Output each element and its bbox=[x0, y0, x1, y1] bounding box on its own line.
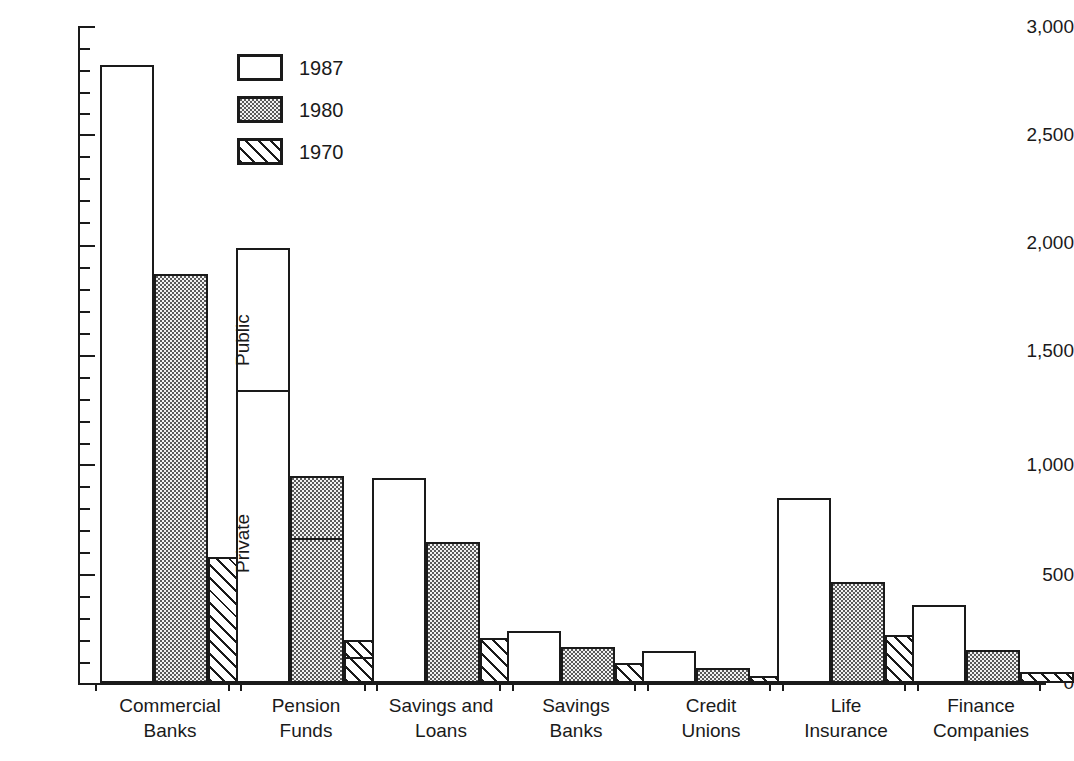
x-tick bbox=[917, 683, 919, 691]
bar-credit-unions-1980[interactable] bbox=[696, 668, 750, 683]
x-axis-line bbox=[78, 683, 1046, 685]
bar-finance-companies-1987[interactable] bbox=[912, 605, 966, 683]
bar-pension-funds-1987[interactable]: Public Private bbox=[236, 248, 290, 683]
bar-commercial-banks-1980[interactable] bbox=[154, 274, 208, 683]
bar-life-insurance-1987[interactable] bbox=[777, 498, 831, 683]
bar-finance-companies-1980[interactable] bbox=[966, 650, 1020, 683]
x-tick bbox=[240, 683, 242, 691]
bar-credit-unions-1987[interactable] bbox=[642, 651, 696, 683]
x-tick bbox=[647, 683, 649, 691]
x-tick bbox=[1039, 683, 1041, 691]
legend-swatch-white-icon bbox=[237, 54, 283, 81]
x-tick bbox=[364, 683, 366, 691]
x-tick bbox=[512, 683, 514, 691]
legend-swatch-stipple-icon bbox=[237, 96, 283, 123]
legend-swatch-hatch-icon bbox=[237, 138, 283, 165]
x-tick bbox=[634, 683, 636, 691]
pension-segment-divider-1980 bbox=[292, 538, 342, 540]
plot-area: Public Private bbox=[78, 26, 1046, 683]
bar-savings-and-loans-1980[interactable] bbox=[426, 542, 480, 683]
bar-commercial-banks-1987[interactable] bbox=[100, 65, 154, 683]
segment-label-public: Public bbox=[233, 314, 252, 366]
x-tick bbox=[95, 683, 97, 691]
bar-savings-and-loans-1987[interactable] bbox=[372, 478, 426, 683]
pension-segment-divider-1987 bbox=[238, 390, 288, 392]
bar-life-insurance-1980[interactable] bbox=[831, 582, 885, 683]
x-tick bbox=[782, 683, 784, 691]
bar-finance-companies-1970[interactable] bbox=[1020, 672, 1074, 683]
x-category-label-finance-companies: Finance Companies bbox=[891, 693, 1071, 743]
bar-chart: 3,000 2,500 2,000 1,500 1,000 500 0 bbox=[0, 0, 1074, 761]
x-tick bbox=[228, 683, 230, 691]
x-tick bbox=[499, 683, 501, 691]
legend-label-1980: 1980 bbox=[299, 98, 344, 122]
segment-label-private: Private bbox=[233, 514, 252, 573]
legend-label-1987: 1987 bbox=[299, 56, 344, 80]
x-tick bbox=[769, 683, 771, 691]
x-tick bbox=[904, 683, 906, 691]
bar-group-finance-companies bbox=[912, 26, 1072, 683]
legend-label-1970: 1970 bbox=[299, 140, 344, 164]
bar-savings-banks-1987[interactable] bbox=[507, 631, 561, 683]
x-tick bbox=[376, 683, 378, 691]
bar-savings-banks-1980[interactable] bbox=[561, 647, 615, 683]
bar-pension-funds-1980[interactable] bbox=[290, 476, 344, 683]
